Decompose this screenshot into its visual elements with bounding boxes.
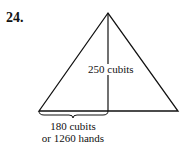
base-label-line2: or 1260 hands xyxy=(36,132,110,143)
base-label-line1: 180 cubits xyxy=(36,120,110,132)
base-label: 180 cubits or 1260 hands xyxy=(36,120,110,143)
base-brace xyxy=(39,111,108,118)
figure: 24. 250 cubits 180 cubits or 1260 hands xyxy=(0,0,190,143)
height-label: 250 cubits xyxy=(87,64,135,75)
